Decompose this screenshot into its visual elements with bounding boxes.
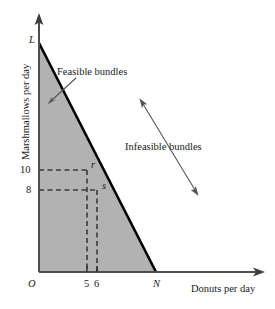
figure-canvas xyxy=(0,0,275,309)
budget-constraint-figure: Marshmallows per day Donuts per day O L … xyxy=(0,0,275,309)
y-tick-label-8: 8 xyxy=(26,185,31,196)
point-label-s: s xyxy=(102,181,106,192)
x-tick-label-6: 6 xyxy=(94,279,99,290)
y-tick-label-10: 10 xyxy=(20,165,31,176)
y-axis-title: Marshmallows per day xyxy=(21,64,32,160)
x-intercept-label-N: N xyxy=(153,279,160,290)
origin-label: O xyxy=(28,279,36,290)
infeasible-annotation-arrowhead-lower xyxy=(191,186,199,196)
infeasible-bundles-annotation: Infeasible bundles xyxy=(125,142,202,153)
point-label-r: r xyxy=(91,160,95,171)
x-tick-label-5: 5 xyxy=(84,279,89,290)
infeasible-annotation-arrowhead-upper xyxy=(139,98,147,108)
feasible-bundles-annotation: Feasible bundles xyxy=(57,67,127,78)
y-intercept-label-L: L xyxy=(29,35,35,46)
x-axis-title: Donuts per day xyxy=(191,284,255,295)
